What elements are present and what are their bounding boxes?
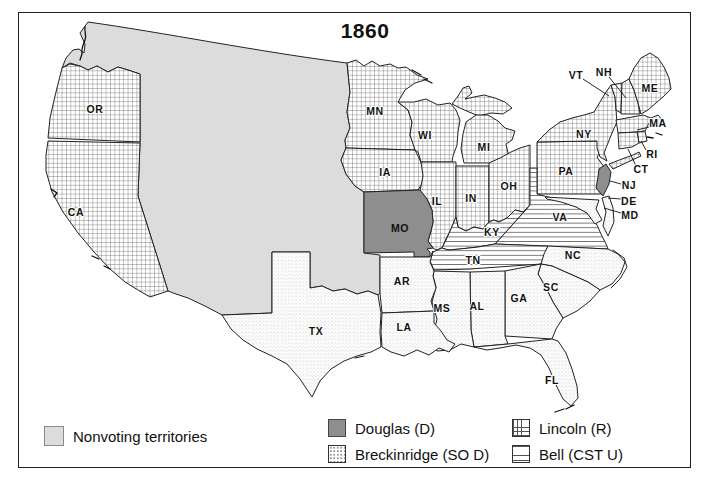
- state-label-tn: TN: [465, 254, 480, 266]
- state-label-or: OR: [87, 103, 104, 115]
- legend-bell: Bell (CST U): [512, 445, 623, 463]
- state-label-nh: NH: [596, 66, 612, 78]
- state-label-il: IL: [432, 195, 443, 207]
- us-election-map-1860: OR CA MN WI IA MO IL IN OH MI PA NY ME V…: [0, 0, 711, 485]
- state-label-md: MD: [621, 209, 639, 221]
- state-label-mo: MO: [391, 222, 409, 234]
- state-label-ri: RI: [646, 148, 658, 160]
- state-label-al: AL: [469, 300, 484, 312]
- state-label-ms: MS: [434, 302, 451, 314]
- state-label-mi: MI: [478, 141, 491, 153]
- state-label-de: DE: [621, 195, 637, 207]
- state-label-mn: MN: [366, 105, 384, 117]
- douglas-label: Douglas (D): [355, 420, 435, 437]
- bell-swatch: [512, 445, 530, 463]
- vt-leader-line: [583, 79, 609, 96]
- state-label-vt: VT: [569, 69, 584, 81]
- legend-breckinridge: Breckinridge (SO D): [328, 445, 489, 463]
- state-label-tx: TX: [309, 325, 324, 337]
- state-mi-upper: [452, 86, 512, 116]
- state-label-ga: GA: [511, 292, 528, 304]
- douglas-swatch: [328, 419, 346, 437]
- state-label-ky: KY: [484, 226, 500, 238]
- state-label-ct: CT: [633, 163, 648, 175]
- bell-label: Bell (CST U): [539, 446, 623, 463]
- state-fl: [474, 339, 578, 406]
- nonvoting-territories-label: Nonvoting territories: [73, 428, 207, 445]
- state-label-wi: WI: [418, 129, 432, 141]
- state-label-ia: IA: [379, 166, 391, 178]
- state-ct: [618, 132, 639, 149]
- state-label-la: LA: [396, 321, 411, 333]
- state-label-pa: PA: [558, 165, 573, 177]
- legend-lincoln: Lincoln (R): [512, 419, 612, 437]
- state-label-va: VA: [552, 211, 567, 223]
- state-label-in: IN: [465, 192, 477, 204]
- state-label-sc: SC: [543, 281, 559, 293]
- florida-keys: [555, 405, 574, 412]
- state-label-ma: MA: [649, 117, 667, 129]
- legend-nonvoting: Nonvoting territories: [44, 426, 207, 446]
- legend-douglas: Douglas (D): [328, 419, 435, 437]
- lincoln-label: Lincoln (R): [539, 420, 612, 437]
- nj-leader-line: [610, 181, 621, 184]
- state-label-ar: AR: [394, 275, 410, 287]
- breckinridge-label: Breckinridge (SO D): [355, 446, 489, 463]
- state-label-oh: OH: [501, 180, 518, 192]
- state-label-ny: NY: [576, 128, 592, 140]
- lincoln-swatch: [512, 419, 530, 437]
- state-label-nc: NC: [565, 249, 581, 261]
- state-label-me: ME: [642, 82, 659, 94]
- state-label-fl: FL: [545, 374, 559, 386]
- state-label-nj: NJ: [622, 179, 637, 191]
- nonvoting-territories-swatch: [44, 426, 64, 446]
- state-de-delmarva: [602, 196, 614, 236]
- breckinridge-swatch: [328, 445, 346, 463]
- nantucket-islands: [647, 133, 662, 138]
- state-label-ca: CA: [68, 206, 84, 218]
